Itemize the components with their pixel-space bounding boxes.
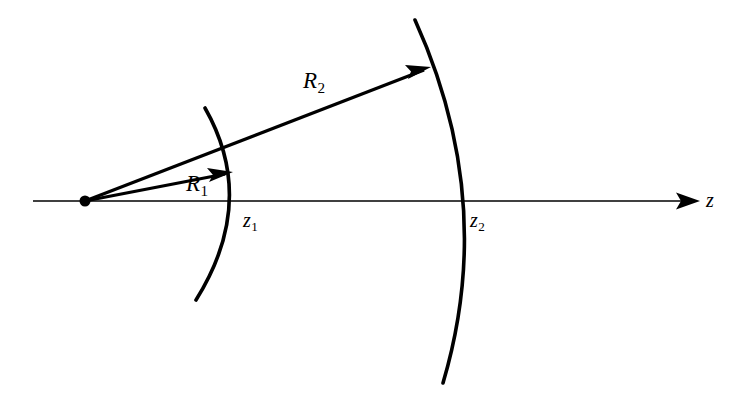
wavefront-arc-1 <box>196 108 229 300</box>
figure-container: R1 R2 z1 z2 z <box>0 0 742 407</box>
label-z-axis: z <box>706 190 714 210</box>
ray-r2 <box>85 65 431 201</box>
label-plane-1-base: z <box>243 209 251 231</box>
label-plane-1: z1 <box>243 210 258 233</box>
label-radius-2-subscript: 2 <box>317 79 325 96</box>
label-radius-1: R1 <box>186 172 208 198</box>
label-z-axis-base: z <box>706 189 714 211</box>
label-radius-1-base: R <box>186 171 200 196</box>
ray-r2-line <box>85 70 424 201</box>
label-plane-1-subscript: 1 <box>251 219 258 234</box>
label-radius-2: R2 <box>303 69 325 95</box>
point-source-dot <box>80 196 91 207</box>
label-radius-1-subscript: 1 <box>200 182 208 199</box>
ray-r2-arrowhead <box>405 65 431 79</box>
label-plane-2-subscript: 2 <box>478 219 485 234</box>
z-axis <box>33 193 700 210</box>
wavefront-diagram <box>0 0 742 407</box>
label-radius-2-base: R <box>303 68 317 93</box>
label-plane-2: z2 <box>470 210 485 233</box>
label-plane-2-base: z <box>470 209 478 231</box>
